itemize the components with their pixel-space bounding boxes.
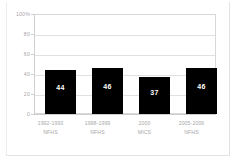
- bar-2000-mics[interactable]: 37: [139, 77, 170, 114]
- bar-1992-1993-nfhs[interactable]: 44: [45, 70, 76, 114]
- y-tick-label-40: 40: [0, 71, 30, 77]
- x-tick-label-line1: 1992-1993: [38, 120, 64, 126]
- y-tick-label-60: 60: [0, 51, 30, 57]
- x-tick-label-line1: 2005-2006: [179, 120, 205, 126]
- bar-2005-2006-nfhs[interactable]: 46: [186, 68, 217, 114]
- bar-value-label: 46: [92, 83, 123, 90]
- x-tick-label-line1: 1998-1999: [85, 120, 111, 126]
- x-tick-label-2005-2006-nfhs: 2005-2006 NFHS: [164, 119, 219, 136]
- y-tick-label-100: 100%: [0, 11, 30, 17]
- x-tick-label-line2: NFHS: [164, 128, 219, 137]
- bar-chart: 100% 80 60 40 20 0 44 46 37 46: [0, 0, 232, 159]
- bar-value-label: 37: [139, 89, 170, 96]
- x-tick-label-line1: 2000: [139, 120, 151, 126]
- bar-value-label: 46: [186, 83, 217, 90]
- chart-screenshot: 100% 80 60 40 20 0 44 46 37 46: [0, 0, 232, 159]
- bars-layer: 44 46 37 46: [34, 14, 216, 114]
- x-axis-line: [34, 114, 216, 115]
- y-tick-label-80: 80: [0, 31, 30, 37]
- y-tick-label-20: 20: [0, 91, 30, 97]
- y-tick-label-0: 0: [0, 111, 30, 117]
- bar-1998-1999-nfhs[interactable]: 46: [92, 68, 123, 114]
- bar-value-label: 44: [45, 84, 76, 91]
